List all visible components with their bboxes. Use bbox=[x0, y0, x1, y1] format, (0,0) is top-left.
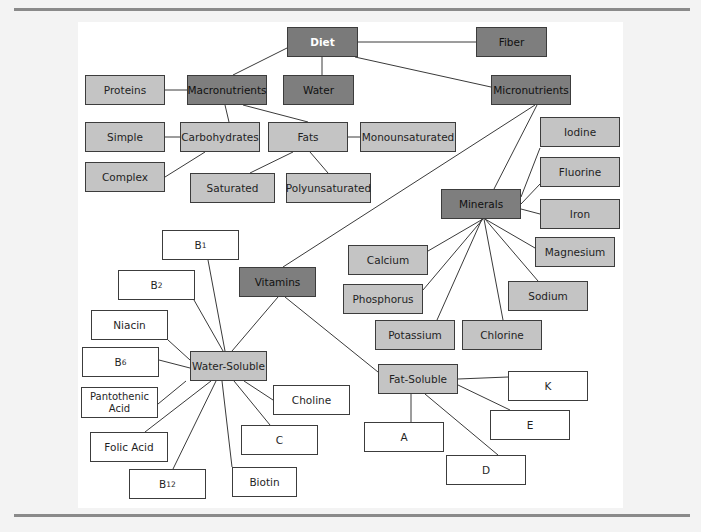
node-c: C bbox=[241, 425, 318, 455]
node-water: Water bbox=[283, 75, 354, 105]
node-biotin: Biotin bbox=[232, 467, 297, 497]
node-macronutrients: Macronutrients bbox=[187, 75, 267, 105]
edge-fs-k bbox=[458, 377, 508, 379]
edge-vitamins-water-soluble bbox=[232, 297, 278, 351]
edge-ws-b2 bbox=[194, 300, 223, 351]
node-fluorine: Fluorine bbox=[540, 157, 620, 187]
b6-label: B bbox=[115, 356, 122, 369]
b12-label: B bbox=[159, 478, 166, 491]
edge-ws-pantothenic bbox=[158, 381, 186, 404]
b1-subscript: 1 bbox=[202, 241, 207, 250]
edge-ws-c bbox=[234, 381, 270, 425]
node-a: A bbox=[364, 422, 444, 452]
b6-subscript: 6 bbox=[122, 358, 127, 367]
node-fiber: Fiber bbox=[476, 27, 547, 57]
edge-minerals-chlorine bbox=[484, 219, 503, 320]
edge-fs-e bbox=[458, 385, 510, 410]
node-potassium: Potassium bbox=[375, 320, 455, 350]
node-b1: B1 bbox=[162, 230, 239, 260]
node-diet: Diet bbox=[287, 27, 358, 57]
node-folic-acid: Folic Acid bbox=[90, 432, 168, 462]
edge-fats-saturated bbox=[250, 152, 293, 173]
edge-diet-macronutrients bbox=[233, 48, 287, 75]
node-e: E bbox=[490, 410, 570, 440]
bottom-rule bbox=[14, 514, 690, 517]
edge-minerals-phosphorus bbox=[423, 219, 483, 290]
node-saturated: Saturated bbox=[190, 173, 275, 203]
edge-ws-b1 bbox=[208, 260, 225, 351]
edge-diet-micronutrients bbox=[355, 57, 491, 87]
b1-label: B bbox=[195, 239, 202, 252]
edge-macro-carbohydrates bbox=[225, 105, 229, 122]
node-minerals: Minerals bbox=[441, 189, 521, 219]
edge-minerals-potassium bbox=[437, 219, 482, 320]
b12-subscript: 12 bbox=[166, 480, 176, 489]
node-simple: Simple bbox=[85, 122, 165, 152]
node-iodine: Iodine bbox=[540, 117, 620, 147]
edge-ws-b6 bbox=[159, 360, 190, 368]
node-sodium: Sodium bbox=[508, 281, 588, 311]
edge-ws-choline bbox=[244, 381, 273, 400]
node-carbohydrates: Carbohydrates bbox=[180, 122, 260, 152]
edge-minerals-sodium bbox=[485, 219, 538, 281]
node-choline: Choline bbox=[273, 385, 350, 415]
node-b6: B6 bbox=[82, 347, 159, 377]
edge-minerals-iodine bbox=[521, 148, 540, 197]
edge-minerals-fluorine bbox=[521, 184, 540, 204]
node-complex: Complex bbox=[85, 162, 165, 192]
node-phosphorus: Phosphorus bbox=[343, 284, 423, 314]
node-k: K bbox=[508, 371, 588, 401]
node-monounsaturated: Monounsaturated bbox=[360, 122, 456, 152]
edge-ws-niacin bbox=[168, 340, 190, 360]
node-iron: Iron bbox=[540, 199, 620, 229]
node-b2: B2 bbox=[118, 270, 195, 300]
node-pantothenic-acid: Pantothenic Acid bbox=[81, 387, 158, 418]
edge-macro-fats bbox=[243, 105, 308, 122]
edge-ws-biotin bbox=[222, 381, 232, 467]
node-vitamins: Vitamins bbox=[239, 267, 316, 297]
b2-label: B bbox=[151, 279, 158, 292]
node-fat-soluble: Fat-Soluble bbox=[378, 364, 458, 394]
node-water-soluble: Water-Soluble bbox=[190, 351, 267, 381]
node-d: D bbox=[446, 455, 526, 485]
node-micronutrients: Micronutrients bbox=[491, 75, 571, 105]
node-niacin: Niacin bbox=[91, 310, 168, 340]
edge-minerals-iron bbox=[521, 209, 540, 214]
node-calcium: Calcium bbox=[348, 245, 428, 275]
node-magnesium: Magnesium bbox=[535, 237, 615, 267]
b2-subscript: 2 bbox=[158, 281, 163, 290]
node-chlorine: Chlorine bbox=[462, 320, 542, 350]
node-fats: Fats bbox=[268, 122, 348, 152]
edge-fats-poly bbox=[310, 152, 328, 173]
node-b12: B12 bbox=[129, 469, 206, 499]
node-polyunsaturated: Polyunsaturated bbox=[286, 173, 371, 203]
node-proteins: Proteins bbox=[85, 75, 165, 105]
edge-minerals-magnesium bbox=[485, 219, 535, 248]
